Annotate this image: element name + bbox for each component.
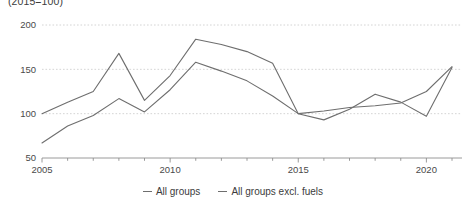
gridlines-group (42, 25, 462, 114)
legend-label: All groups excl. fuels (231, 186, 323, 197)
y-axis-tick-labels: 50100150200 (20, 19, 36, 163)
legend-line-icon (143, 191, 152, 192)
chart-plot-area: 50100150200 2005201020152020 (0, 0, 466, 209)
line-chart-figure: (2015=100) 50100150200 2005201020152020 … (0, 0, 466, 209)
chart-legend: All groupsAll groups excl. fuels (0, 186, 466, 197)
y-tick-label: 50 (25, 152, 36, 163)
x-tick-label: 2020 (416, 164, 437, 175)
x-axis-tick-labels: 2005201020152020 (31, 164, 437, 175)
legend-line-icon (218, 191, 227, 192)
legend-item[interactable]: All groups (143, 186, 200, 197)
series-line (42, 62, 452, 143)
x-tick-label: 2010 (160, 164, 181, 175)
series-line (42, 39, 452, 120)
x-tick-label: 2005 (31, 164, 52, 175)
y-tick-label: 100 (20, 108, 36, 119)
x-axis-line-group (42, 158, 462, 163)
legend-item[interactable]: All groups excl. fuels (218, 186, 323, 197)
legend-label: All groups (156, 186, 200, 197)
data-series-group (42, 39, 452, 143)
y-tick-label: 200 (20, 19, 36, 30)
y-tick-label: 150 (20, 64, 36, 75)
x-tick-label: 2015 (288, 164, 309, 175)
